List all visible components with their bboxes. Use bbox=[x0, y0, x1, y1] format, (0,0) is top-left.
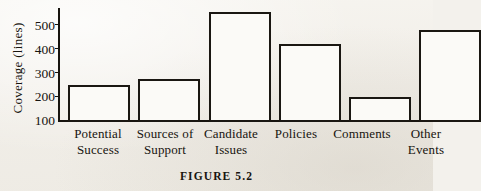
bar-sources-of-support bbox=[138, 79, 200, 122]
y-tick-label-400: 400 bbox=[22, 43, 55, 57]
bar-other-events bbox=[419, 30, 481, 122]
figure-caption: FIGURE 5.2 bbox=[0, 170, 433, 182]
bars-layer bbox=[60, 8, 428, 122]
y-tick-label-300: 300 bbox=[22, 67, 55, 81]
x-axis-labels: Potential Success Sources of Support Can… bbox=[60, 126, 430, 166]
bar-potential-success bbox=[68, 85, 130, 122]
x-label-line1: Other bbox=[386, 126, 466, 142]
bar-comments bbox=[349, 97, 411, 122]
bar-candidate-issues bbox=[209, 12, 271, 122]
y-tick-label-500: 500 bbox=[22, 19, 55, 33]
y-tick-label-100: 100 bbox=[22, 114, 55, 128]
bar-policies bbox=[279, 44, 341, 122]
x-label-line2: Issues bbox=[182, 142, 280, 158]
x-label-line2: Events bbox=[386, 142, 466, 158]
y-tick-label-200: 200 bbox=[22, 90, 55, 104]
x-label-other-events: Other Events bbox=[386, 126, 466, 157]
